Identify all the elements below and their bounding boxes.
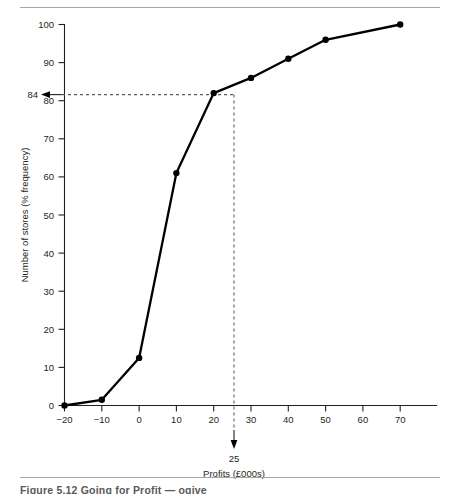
data-point — [173, 170, 179, 176]
x-tick-label: 0 — [136, 414, 141, 425]
cumulative-frequency-chart: 0 10 20 30 40 50 60 70 80 90 100 −20 — [0, 0, 453, 480]
data-point — [248, 75, 254, 81]
x-tick-label: 70 — [395, 414, 406, 425]
x-reference-arrow-head — [231, 440, 238, 449]
y-axis-title: Number of stores (% frequency) — [19, 148, 30, 283]
x-tick-label: 40 — [283, 414, 294, 425]
y-tick-label: 20 — [43, 324, 54, 335]
y-tick-label: 40 — [43, 248, 54, 259]
y-tick-label: 30 — [43, 286, 54, 297]
y-tick-label: 60 — [43, 171, 54, 182]
data-point — [397, 21, 403, 27]
x-tick-label: −20 — [56, 414, 72, 425]
y-tick-label: 10 — [43, 362, 54, 373]
chart-axes — [65, 24, 438, 406]
y-tick-label: 70 — [43, 133, 54, 144]
y-tick-label: 50 — [43, 210, 54, 221]
x-axis-ticks — [65, 406, 401, 412]
reference-lines: 84 25 — [27, 89, 239, 464]
data-point — [285, 56, 291, 62]
y-tick-label: 100 — [38, 19, 54, 30]
data-series-ogive — [61, 21, 403, 408]
data-point — [211, 90, 217, 96]
y-reference-label: 84 — [27, 89, 38, 100]
data-point — [99, 397, 105, 403]
y-axis-ticks — [59, 25, 65, 406]
data-point — [61, 402, 67, 408]
x-tick-label: 50 — [320, 414, 331, 425]
x-tick-label: −10 — [94, 414, 110, 425]
y-tick-label: 0 — [49, 400, 54, 411]
data-point — [136, 355, 142, 361]
series-line — [65, 25, 401, 406]
figure-container: 0 10 20 30 40 50 60 70 80 90 100 −20 — [0, 0, 453, 494]
x-axis-tick-labels: −20 −10 0 10 20 30 40 50 60 70 — [56, 414, 405, 425]
figure-caption: Figure 5.12 Going for Profit — ogive — [20, 484, 207, 494]
bottom-divider-rule — [20, 477, 440, 478]
axis-titles: Number of stores (% frequency) Profits (… — [19, 148, 265, 479]
y-tick-label: 90 — [43, 57, 54, 68]
x-tick-label: 10 — [171, 414, 182, 425]
data-point — [322, 37, 328, 43]
y-axis-tick-labels: 0 10 20 30 40 50 60 70 80 90 100 — [38, 19, 54, 411]
x-tick-label: 30 — [246, 414, 257, 425]
x-tick-label: 20 — [208, 414, 219, 425]
x-tick-label: 60 — [358, 414, 369, 425]
x-reference-label: 25 — [229, 453, 240, 464]
